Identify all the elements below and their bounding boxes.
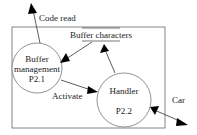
- data-store-label: Buffer characters: [70, 30, 133, 40]
- arrowhead-icon: [60, 53, 70, 63]
- flow-code-read-label: Code read: [39, 13, 76, 23]
- process-handler: [97, 73, 151, 127]
- arrowhead-icon: [100, 44, 109, 53]
- arrowhead-icon: [87, 86, 98, 94]
- data-flow-diagram: Buffer characters Buffer management P2.1…: [0, 0, 197, 135]
- process-p21-name-line1: Buffer: [25, 54, 48, 64]
- process-p22-number: P2.2: [116, 106, 132, 116]
- flow-activate-line: [61, 80, 91, 90]
- flow-activate-label: Activate: [52, 91, 83, 101]
- arrowhead-icon: [176, 118, 188, 126]
- arrowhead-icon: [28, 3, 37, 14]
- process-p21-name-line2: management: [14, 64, 60, 74]
- process-p22-name: Handler: [110, 86, 139, 96]
- arrowhead-icon: [150, 106, 159, 115]
- process-p21-number: P2.1: [29, 74, 45, 84]
- flow-store-to-p21-line: [66, 42, 92, 59]
- flow-p22-to-store-line: [106, 52, 115, 73]
- flow-car-label: Car: [172, 95, 185, 105]
